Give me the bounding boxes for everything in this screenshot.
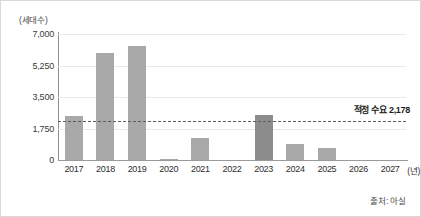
reference-line-label: 적정 수요 2,178 bbox=[354, 103, 410, 116]
x-tick-2018: 2018 bbox=[96, 164, 115, 174]
y-tick-7000: 7,000 bbox=[1, 29, 54, 39]
bar-2019 bbox=[128, 46, 146, 160]
gridline-7000 bbox=[58, 34, 406, 35]
bar-2017 bbox=[65, 116, 83, 160]
bar-2025 bbox=[318, 148, 336, 160]
x-tick-2021: 2021 bbox=[191, 164, 210, 174]
reference-line bbox=[58, 121, 406, 122]
x-tick-2026: 2026 bbox=[349, 164, 368, 174]
y-tick-5250: 5,250 bbox=[1, 61, 54, 71]
y-tick-0: 0 bbox=[1, 155, 54, 165]
source-caption: 출처: 아실 bbox=[370, 194, 406, 206]
x-tick-2027: 2027 bbox=[381, 164, 400, 174]
bar-2018 bbox=[96, 53, 114, 160]
bar-2021 bbox=[191, 138, 209, 160]
x-tick-2022: 2022 bbox=[223, 164, 242, 174]
x-axis-unit-label: (년) bbox=[407, 164, 420, 176]
x-tick-2023: 2023 bbox=[254, 164, 273, 174]
x-axis-tick-labels: 2017201820192020202120222023202420252026… bbox=[58, 164, 408, 182]
bar-2020 bbox=[160, 159, 178, 160]
chart-figure: (세대수) 7,000 5,250 3,500 1,750 0 적정 수요 2,… bbox=[0, 0, 421, 217]
x-tick-2019: 2019 bbox=[128, 164, 147, 174]
bar-2024 bbox=[286, 144, 304, 160]
x-tick-2017: 2017 bbox=[64, 164, 83, 174]
x-tick-2025: 2025 bbox=[317, 164, 336, 174]
plot-area bbox=[58, 34, 406, 160]
x-tick-2020: 2020 bbox=[159, 164, 178, 174]
x-axis-line bbox=[58, 160, 408, 161]
y-axis-tick-labels: 7,000 5,250 3,500 1,750 0 bbox=[1, 1, 54, 217]
x-tick-2024: 2024 bbox=[286, 164, 305, 174]
y-tick-1750: 1,750 bbox=[1, 124, 54, 134]
y-tick-3500: 3,500 bbox=[1, 92, 54, 102]
